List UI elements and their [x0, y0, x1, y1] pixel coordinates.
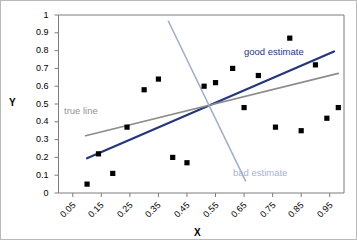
true-line-label: true line — [64, 105, 98, 116]
data-point-3 — [124, 125, 129, 130]
bad-estimate-label: bad estimate — [233, 167, 287, 178]
y-tick-label-10: 1 — [27, 10, 49, 20]
data-point-16 — [313, 62, 318, 67]
y-tick-label-1: 0.1 — [27, 170, 49, 180]
y-axis-title: Y — [9, 97, 16, 108]
y-tick-label-0: 0 — [27, 188, 49, 198]
data-point-2 — [110, 171, 115, 176]
plot-frame — [59, 15, 345, 193]
data-point-6 — [170, 155, 175, 160]
data-point-8 — [202, 84, 207, 89]
good-estimate-label: good estimate — [244, 46, 304, 57]
data-point-0 — [84, 182, 89, 187]
data-point-11 — [241, 105, 246, 110]
data-point-13 — [273, 125, 278, 130]
y-tick-label-4: 0.4 — [27, 116, 49, 126]
data-point-1 — [96, 151, 101, 156]
data-point-15 — [299, 128, 304, 133]
x-axis-title: X — [194, 227, 201, 238]
data-point-14 — [287, 36, 292, 41]
trend-line-bad-estimate — [168, 21, 245, 181]
data-point-5 — [156, 76, 161, 81]
data-point-4 — [142, 87, 147, 92]
data-point-7 — [184, 160, 189, 165]
trend-line-true-line — [86, 73, 339, 135]
data-point-17 — [324, 116, 329, 121]
y-tick-label-2: 0.2 — [27, 152, 49, 162]
chart-figure: 00.10.20.30.40.50.60.70.80.91 0.050.150.… — [0, 0, 357, 240]
y-tick-label-9: 0.9 — [27, 27, 49, 37]
data-point-9 — [213, 80, 218, 85]
data-point-18 — [336, 105, 341, 110]
data-point-10 — [230, 66, 235, 71]
y-tick-label-8: 0.8 — [27, 45, 49, 55]
y-tick-label-7: 0.7 — [27, 63, 49, 73]
data-point-12 — [256, 73, 261, 78]
y-tick-label-6: 0.6 — [27, 81, 49, 91]
y-tick-label-5: 0.5 — [27, 99, 49, 109]
y-tick-label-3: 0.3 — [27, 134, 49, 144]
